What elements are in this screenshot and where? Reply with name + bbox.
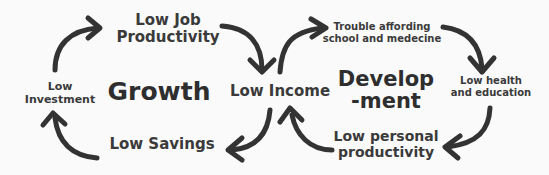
center-label-development: Develop -ment	[336, 68, 436, 112]
node-low-job-productivity: Low Job Productivity	[110, 12, 226, 47]
node-trouble-affording: Trouble affording school and medecine	[320, 21, 444, 44]
arrow-trouble-to-health-icon	[443, 27, 494, 72]
node-low-income: Low Income	[225, 83, 335, 100]
center-label-growth: Growth	[104, 78, 214, 107]
arrow-savings-to-investment-icon	[43, 113, 97, 158]
node-low-investment: Low Investment	[18, 81, 102, 106]
node-low-personal-productivity: Low personal productivity	[330, 128, 442, 160]
arrow-income-to-savings-icon	[228, 110, 270, 160]
node-low-health-education: Low health and education	[438, 75, 544, 98]
arrow-investment-to-productivity-icon	[55, 18, 100, 70]
arrow-personal-to-income-icon	[280, 108, 332, 150]
arrow-health-to-personal-icon	[445, 108, 490, 158]
node-low-savings: Low Savings	[102, 136, 222, 153]
arrow-productivity-to-income-icon	[222, 26, 274, 72]
